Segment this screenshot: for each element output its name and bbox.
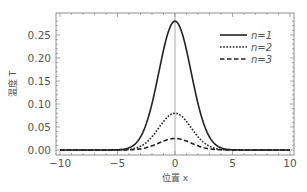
x-tick-label: 0 <box>172 157 179 169</box>
x-tick-label: −5 <box>110 157 125 169</box>
y-tick-labels: 0.000.050.100.150.200.25 <box>28 29 51 156</box>
y-tick-label: 0.20 <box>28 52 51 64</box>
legend-label-n3: n=3 <box>251 54 272 65</box>
legend-label-n2: n=2 <box>251 42 272 53</box>
x-axis-label: 位置 x <box>162 172 189 183</box>
x-tick-label: 10 <box>283 157 296 169</box>
legend-label-n1: n=1 <box>251 30 272 41</box>
x-tick-labels: −10−50510 <box>49 157 297 169</box>
y-axis-label: 温度 T <box>7 70 18 97</box>
y-tick-label: 0.05 <box>28 121 51 133</box>
y-tick-label: 0.00 <box>28 144 51 156</box>
y-tick-label: 0.10 <box>28 98 51 110</box>
line-chart: −10−50510 0.000.050.100.150.200.25 位置 x … <box>0 0 307 192</box>
x-tick-label: 5 <box>229 157 236 169</box>
y-tick-label: 0.25 <box>28 29 51 41</box>
y-tick-label: 0.15 <box>28 75 51 87</box>
x-tick-label: −10 <box>49 157 71 169</box>
